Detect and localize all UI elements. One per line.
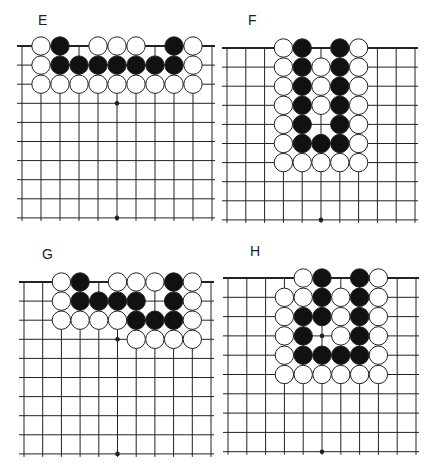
black-stone bbox=[70, 56, 88, 74]
white-stone bbox=[274, 96, 292, 114]
white-stone bbox=[51, 75, 69, 93]
white-stone bbox=[294, 269, 312, 287]
white-stone bbox=[294, 288, 312, 306]
black-stone bbox=[332, 346, 350, 364]
black-stone bbox=[108, 292, 126, 310]
white-stone bbox=[32, 75, 50, 93]
black-stone bbox=[293, 134, 311, 152]
white-stone bbox=[312, 96, 330, 114]
black-stone bbox=[127, 311, 145, 329]
star-point bbox=[115, 337, 120, 342]
white-stone bbox=[108, 311, 126, 329]
white-stone bbox=[332, 307, 350, 325]
white-stone bbox=[127, 273, 145, 291]
white-stone bbox=[183, 273, 201, 291]
black-stone bbox=[293, 77, 311, 95]
star-point bbox=[320, 334, 325, 339]
black-stone bbox=[90, 292, 108, 310]
black-stone bbox=[127, 292, 145, 310]
panel-label-g: G bbox=[42, 246, 53, 262]
black-stone bbox=[164, 292, 182, 310]
star-point bbox=[115, 452, 120, 457]
white-stone bbox=[274, 58, 292, 76]
black-stone bbox=[331, 115, 349, 133]
white-stone bbox=[312, 58, 330, 76]
white-stone bbox=[369, 327, 387, 345]
black-stone bbox=[294, 346, 312, 364]
white-stone bbox=[369, 307, 387, 325]
black-stone bbox=[312, 134, 330, 152]
white-stone bbox=[274, 115, 292, 133]
white-stone bbox=[146, 75, 164, 93]
black-stone bbox=[331, 96, 349, 114]
white-stone bbox=[89, 37, 107, 55]
white-stone bbox=[70, 75, 88, 93]
black-stone bbox=[71, 273, 89, 291]
white-stone bbox=[275, 307, 293, 325]
black-stone bbox=[313, 346, 331, 364]
white-stone bbox=[32, 56, 50, 74]
white-stone bbox=[349, 96, 367, 114]
panel-h-board bbox=[223, 269, 419, 455]
white-stone bbox=[369, 365, 387, 383]
black-stone bbox=[293, 115, 311, 133]
white-stone bbox=[90, 311, 108, 329]
black-stone bbox=[294, 327, 312, 345]
black-stone bbox=[165, 56, 183, 74]
panel-f-board bbox=[222, 39, 418, 223]
white-stone bbox=[52, 292, 70, 310]
black-stone bbox=[331, 39, 349, 57]
black-stone bbox=[127, 56, 145, 74]
white-stone bbox=[369, 269, 387, 287]
white-stone bbox=[146, 273, 164, 291]
white-stone bbox=[183, 311, 201, 329]
black-stone bbox=[71, 292, 89, 310]
white-stone bbox=[332, 327, 350, 345]
black-stone bbox=[313, 307, 331, 325]
white-stone bbox=[274, 134, 292, 152]
star-point bbox=[320, 449, 325, 454]
white-stone bbox=[369, 346, 387, 364]
white-stone bbox=[165, 75, 183, 93]
black-stone bbox=[89, 56, 107, 74]
black-stone bbox=[293, 39, 311, 57]
white-stone bbox=[52, 311, 70, 329]
black-stone bbox=[350, 346, 368, 364]
black-stone bbox=[293, 96, 311, 114]
go-diagram-canvas bbox=[0, 0, 435, 466]
white-stone bbox=[293, 153, 311, 171]
black-stone bbox=[350, 269, 368, 287]
white-stone bbox=[274, 153, 292, 171]
black-stone bbox=[165, 37, 183, 55]
black-stone bbox=[146, 56, 164, 74]
black-stone bbox=[331, 134, 349, 152]
white-stone bbox=[332, 288, 350, 306]
black-stone bbox=[51, 56, 69, 74]
panel-label-h: H bbox=[250, 243, 260, 259]
white-stone bbox=[127, 330, 145, 348]
black-stone bbox=[350, 288, 368, 306]
panel-e-board bbox=[17, 37, 215, 221]
white-stone bbox=[349, 134, 367, 152]
white-stone bbox=[183, 292, 201, 310]
white-stone bbox=[349, 39, 367, 57]
white-stone bbox=[369, 288, 387, 306]
white-stone bbox=[108, 273, 126, 291]
white-stone bbox=[275, 365, 293, 383]
white-stone bbox=[312, 77, 330, 95]
black-stone bbox=[293, 58, 311, 76]
white-stone bbox=[32, 37, 50, 55]
panel-g-board bbox=[19, 273, 214, 457]
white-stone bbox=[350, 365, 368, 383]
black-stone bbox=[350, 327, 368, 345]
white-stone bbox=[127, 37, 145, 55]
white-stone bbox=[274, 77, 292, 95]
black-stone bbox=[51, 37, 69, 55]
white-stone bbox=[184, 56, 202, 74]
black-stone bbox=[108, 56, 126, 74]
white-stone bbox=[89, 75, 107, 93]
white-stone bbox=[294, 365, 312, 383]
white-stone bbox=[274, 39, 292, 57]
black-stone bbox=[146, 311, 164, 329]
white-stone bbox=[349, 115, 367, 133]
